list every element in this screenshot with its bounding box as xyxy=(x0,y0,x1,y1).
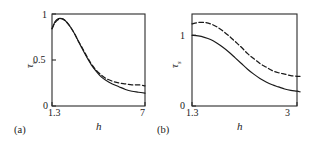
y-tick-label-a-1: 1 xyxy=(42,9,47,20)
y-axis-label-a: τs xyxy=(23,61,38,68)
y-axis-label-b: τs xyxy=(168,61,183,68)
panel-a: 1 0.5 0 1.3 7 h τs (a) xyxy=(0,0,160,148)
y-axis-label-a-tau: τ xyxy=(23,64,35,68)
y-axis-label-a-sub: s xyxy=(30,61,38,64)
y-axis-label-b-tau: τ xyxy=(168,64,180,68)
x-axis-label-a: h xyxy=(96,120,102,132)
y-tick-label-b-1: 1 xyxy=(180,30,185,41)
plot-area-b xyxy=(155,0,315,148)
x-tick-label-b-max: 3 xyxy=(285,107,290,118)
figure-container: 1 0.5 0 1.3 7 h τs (a) 1 0 1.3 3 h τs (b… xyxy=(0,0,315,148)
y-axis-label-b-sub: s xyxy=(175,61,183,64)
x-tick-label-a-max: 7 xyxy=(140,107,145,118)
panel-b: 1 0 1.3 3 h τs (b) xyxy=(155,0,315,148)
x-axis-label-b: h xyxy=(237,120,243,132)
panel-tag-a: (a) xyxy=(14,124,26,135)
x-tick-label-b-min: 1.3 xyxy=(186,107,199,118)
x-tick-label-a-min: 1.3 xyxy=(48,107,61,118)
panel-tag-b: (b) xyxy=(157,124,169,135)
y-tick-label-b-0: 0 xyxy=(180,100,185,111)
